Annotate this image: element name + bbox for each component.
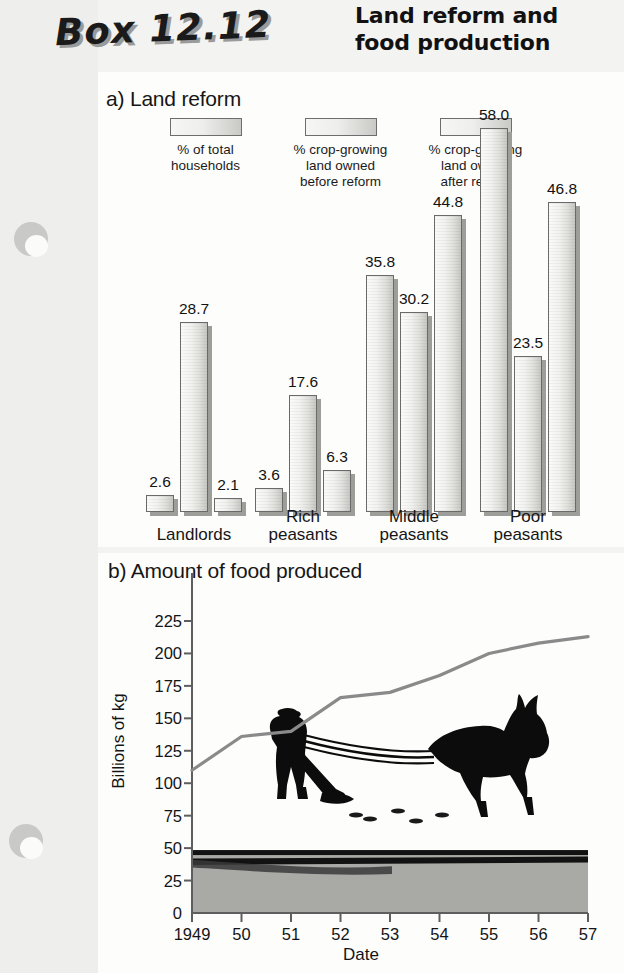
bar-body [146, 495, 174, 512]
y-axis-tick-label: 150 [134, 709, 182, 728]
bar-body [289, 395, 317, 512]
bar: 2.6 [146, 495, 174, 512]
bar-value-label: 44.8 [433, 193, 463, 211]
bar-value-label: 23.5 [513, 334, 543, 352]
bar: 35.8 [366, 275, 394, 512]
punch-hole-icon [9, 824, 43, 858]
x-axis-tick-label: 1949 [174, 925, 211, 944]
bar-value-label: 6.3 [326, 448, 348, 466]
bar: 28.7 [180, 322, 208, 512]
bar: 30.2 [400, 312, 428, 512]
box-number: Box 12.12 [54, 3, 272, 54]
panel-land-reform: a) Land reform % of total households % c… [98, 72, 624, 547]
bar-group-label: Middle peasants [352, 508, 476, 545]
bar-value-label: 30.2 [399, 290, 429, 308]
line-chart: Billions of kg Date 02550751001251501752… [98, 553, 624, 973]
y-axis-tick-label: 50 [134, 839, 182, 858]
bar-value-label: 3.6 [258, 466, 280, 484]
panel-food-produced: b) Amount of food produced Billions of k… [98, 553, 624, 973]
x-axis-tick-label: 50 [232, 925, 250, 944]
bar-value-label: 28.7 [179, 300, 209, 318]
bar-group-label: Poor peasants [466, 508, 590, 545]
x-axis-tick-label: 56 [529, 925, 547, 944]
bar-value-label: 35.8 [365, 253, 395, 271]
y-axis-title: Billions of kg [109, 656, 129, 826]
y-axis-tick-label: 100 [134, 774, 182, 793]
x-axis-tick-label: 55 [480, 925, 498, 944]
y-axis-tick-label: 75 [134, 806, 182, 825]
bar-value-label: 46.8 [547, 180, 577, 198]
bar: 46.8 [548, 202, 576, 512]
bar-value-label: 58.0 [479, 106, 509, 124]
y-axis-tick-label: 0 [134, 904, 182, 923]
bar: 44.8 [434, 215, 462, 512]
bar: 58.0 [480, 128, 508, 512]
bar-body [180, 322, 208, 512]
x-axis-tick-label: 51 [282, 925, 300, 944]
bar-value-label: 17.6 [288, 373, 318, 391]
bar-body [323, 470, 351, 512]
x-axis-tick-label: 53 [381, 925, 399, 944]
x-axis-title: Date [98, 945, 624, 965]
x-axis-tick-label: 52 [331, 925, 349, 944]
bar-body [214, 498, 242, 512]
header: Box 12.12 Land reform and food productio… [0, 0, 624, 72]
bar-chart: 2.628.72.1Landlords3.617.66.3Rich peasan… [98, 72, 624, 547]
bar-body [400, 312, 428, 512]
y-axis-tick-label: 125 [134, 741, 182, 760]
bar-body [480, 128, 508, 512]
bar-value-label: 2.1 [217, 476, 239, 494]
y-axis-tick-label: 225 [134, 612, 182, 631]
ploughing-illustration [192, 694, 588, 913]
y-axis-tick-label: 175 [134, 676, 182, 695]
bar-value-label: 2.6 [149, 473, 171, 491]
y-axis-tick-label: 200 [134, 644, 182, 663]
bar: 23.5 [514, 356, 542, 512]
bar-body [434, 215, 462, 512]
bar: 17.6 [289, 395, 317, 512]
y-axis-tick-label: 25 [134, 871, 182, 890]
bar-body [514, 356, 542, 512]
bar: 6.3 [323, 470, 351, 512]
punch-hole-icon [14, 222, 48, 256]
bar-group-label: Rich peasants [241, 508, 365, 545]
bar-body [366, 275, 394, 512]
bar-body [548, 202, 576, 512]
page-title: Land reform and food production [355, 2, 595, 57]
x-axis-tick-label: 54 [430, 925, 448, 944]
bar: 2.1 [214, 498, 242, 512]
bar-group-label: Landlords [132, 526, 256, 545]
x-axis-tick-label: 57 [579, 925, 597, 944]
